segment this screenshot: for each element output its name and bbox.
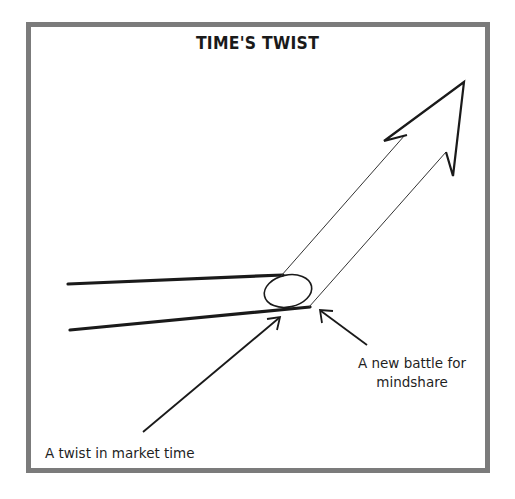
battle-label-line2: mindshare bbox=[338, 373, 486, 392]
twist-label: A twist in market time bbox=[45, 444, 195, 463]
battle-label-line1: A new battle for bbox=[338, 354, 486, 373]
battle-label: A new battle for mindshare bbox=[338, 354, 486, 392]
rising-arrow bbox=[281, 82, 464, 307]
pointer-arrow-twist bbox=[143, 317, 280, 432]
diagram-canvas bbox=[0, 0, 515, 499]
upper-time-line bbox=[68, 275, 283, 284]
pointer-arrow-battle bbox=[320, 310, 367, 345]
